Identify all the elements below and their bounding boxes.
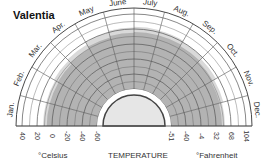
fahrenheit-tick: 32 <box>213 132 220 140</box>
celsius-tick: 0 <box>49 134 56 138</box>
month-label: Jan. <box>5 102 16 118</box>
celsius-tick: -60 <box>94 131 101 141</box>
month-label: July <box>143 0 158 8</box>
radial-temperature-chart: Jan.Feb.Mar.Apr.MayJuneJulyAug.Sep.Oct.N… <box>0 0 269 163</box>
month-label: Oct. <box>225 42 241 59</box>
month-label: Mar. <box>27 41 44 59</box>
month-label: Feb. <box>12 69 26 87</box>
chart-title: Valentia <box>13 9 55 21</box>
fahrenheit-label: °Fahrenheit <box>196 151 237 160</box>
fahrenheit-tick: -51 <box>168 131 175 141</box>
month-label: Apr. <box>50 19 67 35</box>
fahrenheit-tick: -4 <box>198 133 205 139</box>
celsius-tick: -20 <box>64 131 71 141</box>
fahrenheit-tick: -40 <box>183 131 190 141</box>
month-label: June <box>109 0 128 8</box>
celsius-tick: 20 <box>34 132 41 140</box>
fahrenheit-tick: 104 <box>243 130 250 142</box>
month-label: Sep. <box>200 19 219 36</box>
month-label: Aug. <box>172 4 191 19</box>
month-label: Dec. <box>252 101 263 118</box>
fahrenheit-tick: 68 <box>228 132 235 140</box>
celsius-label: °Celsius <box>38 151 67 160</box>
x-axis-label: TEMPERATURE <box>108 151 168 160</box>
month-label: Nov. <box>242 69 256 87</box>
celsius-tick: -40 <box>79 131 86 141</box>
celsius-tick: 40 <box>19 132 26 140</box>
